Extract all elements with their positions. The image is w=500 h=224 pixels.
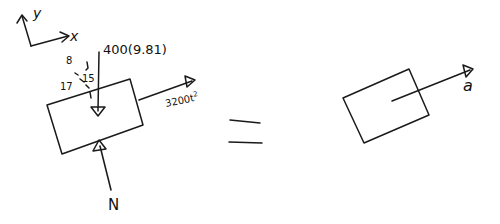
acceleration-label: a [463,78,473,94]
weight-force [91,52,105,116]
slope-hyp-label: 17 [60,82,73,92]
normal-force-line [100,146,111,190]
y-axis-arrow-icon [17,15,27,23]
slope-tick [90,92,91,98]
acceleration-line [392,70,470,101]
normal-force [93,140,111,190]
normal-force-label: N [108,198,119,213]
slope-run-label: 15 [82,74,95,84]
slope-bracket [86,62,88,70]
equals-sign [229,120,262,143]
weight-label: 400(9.81) [103,43,167,56]
right-block [343,69,429,143]
x-axis-label: x [70,29,78,43]
slope-rise-label: 8 [66,56,72,66]
coordinate-axes [17,15,69,46]
equals-bottom-bar [229,142,262,143]
slope-dash-1 [75,73,78,75]
y-axis-label: y [33,6,41,20]
weight-line [98,52,99,111]
slope-dash-3 [86,85,89,88]
equals-top-bar [230,120,260,123]
